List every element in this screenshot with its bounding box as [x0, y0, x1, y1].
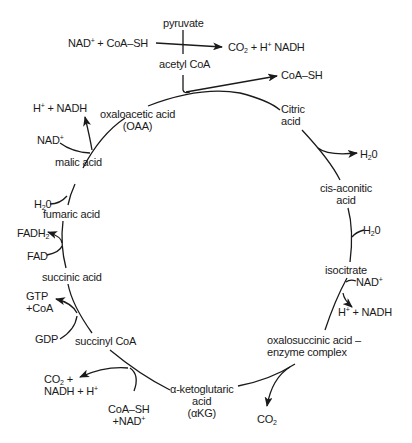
malic-acid-label: malic acid	[55, 156, 102, 168]
akg-coash-in-line	[130, 368, 136, 391]
iso-nadh-out-label: H+ + NADH	[338, 306, 392, 318]
citric-acid-label: Citricacid	[281, 103, 305, 127]
cis-aconitic-acid-label: cis-aconiticacid	[320, 182, 372, 206]
citric-h2o-out-label: H20	[360, 148, 377, 160]
acetyl-coa-entry-line	[183, 75, 190, 93]
akg-coash-nad-in-label: CoA–SH+NAD+	[108, 403, 150, 427]
pyruvate-side-arrow	[156, 43, 222, 47]
succinic-fad-in-label: FAD	[27, 250, 48, 262]
oxalosuccinic-label: oxalosuccinic acid –enzyme complex	[267, 334, 361, 358]
acetyl-coa-label: acetyl CoA	[159, 58, 210, 70]
oxaloacetic-acid-label: oxaloacetic acid(OAA)	[100, 108, 175, 132]
arc-isocitrate-to-oxalo	[325, 278, 347, 330]
succ-gtp-coa-out-label: GTP+CoA	[26, 290, 53, 314]
succinic-fadh2-out-label: FADH2	[17, 227, 49, 239]
malic-nad-in-line	[60, 143, 90, 153]
succ-gdp-in-label: GDP	[35, 333, 58, 345]
fumaric-h2o-in-label: H20	[34, 198, 51, 210]
citric-h2o-out-arrow	[318, 148, 357, 154]
arc-citric-to-cis	[302, 130, 340, 180]
arc-succinic-to-fumaric	[62, 221, 66, 268]
fumaric-acid-label: fumaric acid	[43, 208, 100, 220]
arc-fumaric-to-malic	[68, 184, 75, 205]
entry-outputs-label: CO2 + H+ NADH	[228, 41, 305, 53]
arc-cis-to-isocitrate	[348, 208, 352, 262]
fumaric-h2o-in-line	[50, 196, 67, 204]
iso-nadh-out-arrow	[343, 293, 352, 307]
isocitrate-label: isocitrate	[325, 264, 367, 276]
oxalo-co2-out-label: CO2	[257, 413, 277, 425]
succinic-fadh2-out-arrow	[48, 232, 62, 243]
malic-nadh-out-arrow	[85, 117, 92, 150]
succinic-fad-in-line	[47, 246, 62, 255]
succinyl-coa-label: succinyl CoA	[75, 335, 136, 347]
pyruvate-label: pyruvate	[163, 17, 204, 29]
succinic-acid-label: succinic acid	[42, 271, 102, 283]
arc-oxalo-to-akg	[238, 364, 295, 386]
coa-sh-release-label: CoA–SH	[281, 69, 323, 81]
arc-succinyl-to-succinic	[68, 284, 92, 333]
akg-co2-nadh-out-label: CO2 +NADH + H+	[44, 373, 98, 397]
malic-nad-in-label: NAD+	[37, 134, 64, 146]
iso-nad-in-label: NAD+	[356, 276, 383, 288]
alpha-ketoglutaric-label: α-ketoglutaricacid(αKG)	[170, 383, 233, 419]
arc-akg-to-succinyl	[110, 350, 170, 390]
coa-sh-release-arrow	[186, 76, 277, 92]
malic-nadh-out-label: H+ + NADH	[33, 102, 87, 114]
entry-inputs-label: NAD+ + CoA–SH	[68, 37, 148, 49]
cis-h2o-in-label: H20	[363, 224, 380, 236]
iso-nad-in-line	[346, 280, 356, 282]
